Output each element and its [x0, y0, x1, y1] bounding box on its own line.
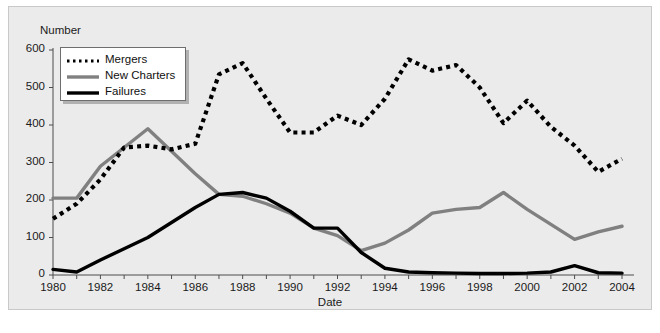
dashed-line-swatch — [66, 53, 100, 65]
y-tick-label: 100 — [15, 230, 45, 242]
series-line-failures — [53, 193, 622, 274]
x-tick-label: 1986 — [175, 281, 215, 293]
x-tick-label: 1990 — [270, 281, 310, 293]
legend-label-mergers: Mergers — [105, 53, 147, 65]
gray-line-swatch — [66, 69, 100, 81]
x-tick-label: 1982 — [80, 281, 120, 293]
x-tick-label: 1994 — [365, 281, 405, 293]
legend-item-mergers: Mergers — [66, 51, 147, 67]
x-axis-title: Date — [0, 296, 660, 308]
legend-item-new-charters: New Charters — [66, 67, 175, 83]
x-tick-label: 2004 — [602, 281, 642, 293]
y-tick-label: 600 — [15, 42, 45, 54]
x-tick-label: 2002 — [555, 281, 595, 293]
x-tick-label: 1988 — [223, 281, 263, 293]
y-tick-label: 300 — [15, 155, 45, 167]
y-axis-title: Number — [40, 24, 81, 36]
x-tick-label: 1992 — [318, 281, 358, 293]
y-tick-label: 0 — [15, 267, 45, 279]
x-tick-label: 2000 — [507, 281, 547, 293]
x-tick-label: 1980 — [33, 281, 73, 293]
chart-legend: Mergers New Charters Failures — [60, 47, 186, 101]
legend-item-failures: Failures — [66, 83, 146, 99]
y-tick-label: 500 — [15, 80, 45, 92]
legend-label-failures: Failures — [105, 85, 146, 97]
chart-figure: Number Date 0100200300400500600 19801982… — [0, 0, 660, 333]
y-tick-label: 200 — [15, 192, 45, 204]
x-tick-label: 1996 — [412, 281, 452, 293]
legend-label-new-charters: New Charters — [105, 69, 175, 81]
black-line-swatch — [66, 85, 100, 97]
x-tick-label: 1984 — [128, 281, 168, 293]
x-tick-label: 1998 — [460, 281, 500, 293]
y-tick-label: 400 — [15, 117, 45, 129]
